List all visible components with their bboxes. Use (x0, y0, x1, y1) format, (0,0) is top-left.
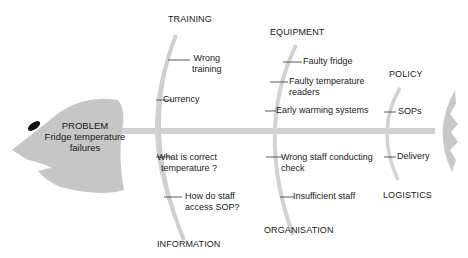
category-policy: POLICY (389, 69, 423, 79)
cause-sops: SOPs (398, 106, 422, 117)
cause-faulty-fridge: Faulty fridge (303, 56, 353, 67)
cause-early-warming-systems: Early warming systems (276, 105, 369, 116)
bone-equipment-organisation (275, 45, 296, 235)
category-information: INFORMATION (157, 239, 220, 249)
cause-delivery: Delivery (397, 151, 430, 162)
cause-correct-temperature: What is correct temperature ? (157, 152, 217, 174)
cause-faulty-temperature-readers: Faulty temperature readers (289, 76, 365, 98)
category-equipment: EQUIPMENT (270, 27, 324, 37)
category-training: TRAINING (168, 14, 212, 24)
category-organisation: ORGANISATION (264, 225, 334, 235)
cause-currency: Currency (163, 94, 200, 105)
problem-title: PROBLEM (40, 120, 130, 131)
cause-access-sop: How do staff access SOP? (185, 191, 240, 213)
fish-tail (443, 90, 458, 172)
problem-line-1: Fridge temperature (40, 131, 130, 142)
cause-wrong-training: Wrong training (192, 53, 222, 75)
problem-line-2: failures (40, 142, 130, 153)
cause-wrong-staff: Wrong staff conducting check (281, 152, 373, 174)
category-logistics: LOGISTICS (383, 190, 432, 200)
cause-insufficient-staff: Insufficient staff (293, 191, 355, 202)
problem-statement: PROBLEM Fridge temperature failures (40, 120, 130, 153)
